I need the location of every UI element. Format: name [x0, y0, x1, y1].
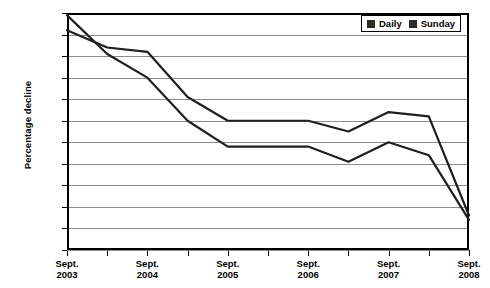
- x-axis-tick-label: Sept.2005: [193, 258, 263, 280]
- gridline: [67, 250, 469, 251]
- dark-square-marker-icon: [367, 20, 375, 28]
- x-axis-tick-label: Sept.2007: [354, 258, 424, 280]
- x-axis-tick-label: Sept.2003: [32, 258, 102, 280]
- legend-label: Sunday: [421, 18, 455, 29]
- series-line-daily: [67, 30, 469, 215]
- legend-entry: Daily: [367, 18, 402, 29]
- chart-legend: DailySunday: [361, 15, 461, 32]
- plot-area: [67, 13, 469, 250]
- dark-square-marker-icon: [409, 20, 417, 28]
- x-axis-tick-mark: [469, 250, 470, 256]
- line-chart: Percentage decline 0%-0.5%-1%-1.5%-2%-2.…: [0, 0, 490, 288]
- x-axis-tick-label: Sept.2008: [434, 258, 490, 280]
- y-axis-title: Percentage decline: [22, 50, 36, 200]
- x-axis-tick-label: Sept.2006: [273, 258, 343, 280]
- x-axis-tick-label: Sept.2004: [112, 258, 182, 280]
- legend-entry: Sunday: [409, 18, 455, 29]
- legend-label: Daily: [379, 18, 402, 29]
- series-lines: [67, 13, 469, 250]
- series-line-sunday: [67, 15, 469, 220]
